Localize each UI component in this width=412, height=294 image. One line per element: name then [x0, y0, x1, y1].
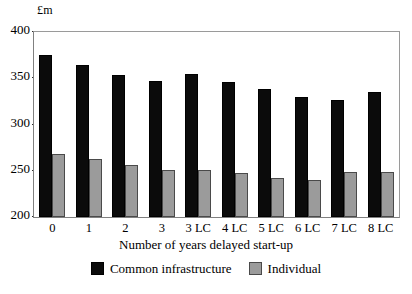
legend-item-label: Common infrastructure [110, 261, 232, 276]
y-axis-unit-label: £m [37, 3, 53, 17]
bar-group [253, 89, 290, 217]
legend-swatch-common-infrastructure-icon [91, 262, 104, 275]
y-axis-tick-label: 200 [11, 208, 31, 221]
x-axis-tick-label: 0 [34, 221, 71, 235]
bar-individual [308, 180, 321, 217]
bar-chart: £m 400350300250200 01233 LC4 LC5 LC6 LC7… [0, 0, 412, 294]
bar-group [107, 75, 144, 217]
plot-frame [33, 31, 400, 218]
y-axis-tick-label: 250 [11, 162, 31, 175]
x-axis-tick-label: 5 LC [253, 221, 290, 235]
bar-individual [381, 172, 394, 217]
bar-individual [125, 165, 138, 217]
bar-individual [344, 172, 357, 217]
bar-individual [198, 170, 211, 217]
bar-common-infrastructure [368, 92, 381, 217]
chart-legend: Common infrastructureIndividual [0, 261, 412, 276]
bar-group [144, 81, 181, 217]
legend-item: Common infrastructure [91, 261, 232, 276]
legend-swatch-individual-icon [249, 262, 262, 275]
x-axis-tick-label: 7 LC [326, 221, 363, 235]
bar-group [71, 65, 108, 217]
x-axis-tick-label: 1 [71, 221, 108, 235]
bar-individual [162, 170, 175, 217]
bar-common-infrastructure [258, 89, 271, 217]
x-axis-tick-label: 3 LC [180, 221, 217, 235]
bar-common-infrastructure [222, 82, 235, 217]
bar-group [180, 74, 217, 217]
bar-group [326, 100, 363, 217]
bar-individual [52, 154, 65, 217]
bar-common-infrastructure [76, 65, 89, 217]
x-axis-tick-label: 3 [144, 221, 181, 235]
plot-area [34, 32, 399, 217]
x-axis-title: Number of years delayed start-up [0, 237, 412, 252]
bar-group [290, 97, 327, 217]
bar-individual [235, 173, 248, 217]
bar-common-infrastructure [39, 55, 52, 217]
x-axis-tick-label: 2 [107, 221, 144, 235]
x-axis-tick-label: 8 LC [363, 221, 400, 235]
bar-common-infrastructure [331, 100, 344, 217]
bar-individual [89, 159, 102, 217]
bar-common-infrastructure [112, 75, 125, 217]
bar-individual [271, 178, 284, 217]
y-axis-tick-label: 400 [11, 23, 31, 36]
bar-group [217, 82, 254, 217]
y-axis-tick-label: 300 [11, 116, 31, 129]
y-axis-tick-label: 350 [11, 69, 31, 82]
bar-common-infrastructure [295, 97, 308, 217]
bar-common-infrastructure [185, 74, 198, 217]
bar-group [363, 92, 400, 217]
legend-item: Individual [249, 261, 321, 276]
legend-item-label: Individual [268, 261, 321, 276]
bar-common-infrastructure [149, 81, 162, 217]
x-axis-tick-label: 6 LC [290, 221, 327, 235]
bar-group [34, 55, 71, 217]
x-axis-tick-label: 4 LC [217, 221, 254, 235]
